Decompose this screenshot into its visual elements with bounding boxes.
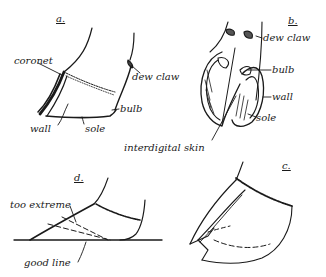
label-dew-claw-b: dew claw <box>263 33 310 43</box>
panel-d-title: d. <box>74 173 84 183</box>
panel-a-title: a. <box>56 14 65 24</box>
label-wall-b: wall <box>272 92 293 102</box>
label-bulb-a: bulb <box>120 104 142 114</box>
panel-b-title: b. <box>288 16 298 26</box>
label-wall-a: wall <box>30 124 51 134</box>
label-good-line: good line <box>24 258 71 268</box>
label-sole-b: sole <box>256 113 276 123</box>
label-too-extreme: too extreme <box>10 200 71 210</box>
panel-d-drawing <box>14 178 162 262</box>
label-coronet: coronet <box>14 56 53 66</box>
label-bulb-b: bulb <box>272 65 294 75</box>
hoof-anatomy-figure: a. coronet dew claw bulb wall sole b. de… <box>0 0 326 277</box>
panel-c-drawing <box>190 162 292 264</box>
label-dew-claw-a: dew claw <box>132 72 179 82</box>
label-sole-a: sole <box>85 124 105 134</box>
panel-c-title: c. <box>282 161 291 171</box>
label-interdigital-skin: interdigital skin <box>124 143 205 153</box>
